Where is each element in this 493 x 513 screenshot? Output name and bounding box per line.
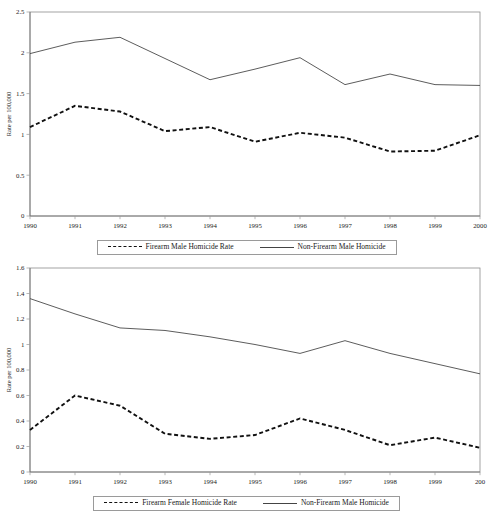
x-axis-tick-label: 2000 xyxy=(473,222,487,229)
series-line-dashed xyxy=(30,106,480,152)
legend-top: Firearm Male Homicide Rate Non-Firearm M… xyxy=(0,240,493,255)
x-axis-tick-label: 1999 xyxy=(428,478,442,485)
legend-box-top: Firearm Male Homicide Rate Non-Firearm M… xyxy=(97,240,397,255)
legend-item-firearm-female: Firearm Female Homicide Rate xyxy=(104,498,237,508)
x-axis-tick-label: 1990 xyxy=(23,478,37,485)
dashed-line-icon xyxy=(104,500,138,506)
y-axis-tick-label: 0.6 xyxy=(16,392,25,399)
y-axis-tick-label: 1.6 xyxy=(16,264,25,271)
legend-label-nonfirearm-male-2: Non-Firearm Male Homicide xyxy=(301,498,389,508)
legend-bottom: Firearm Female Homicide Rate Non-Firearm… xyxy=(0,496,493,511)
y-axis-tick-label: 2 xyxy=(21,49,25,56)
x-axis-tick-label: 1999 xyxy=(428,222,442,229)
series-line-solid xyxy=(30,299,480,374)
y-axis-tick-label: 0.4 xyxy=(16,417,25,424)
y-axis-tick-label: 0.5 xyxy=(16,172,25,179)
dashed-line-icon xyxy=(108,244,142,250)
legend-item-nonfirearm-male: Non-Firearm Male Homicide xyxy=(260,242,386,252)
y-axis-tick-label: 1 xyxy=(21,341,24,348)
y-axis-title: Rate per 100,000 xyxy=(5,348,12,393)
y-axis-tick-label: 1.5 xyxy=(16,90,25,97)
legend-box-bottom: Firearm Female Homicide Rate Non-Firearm… xyxy=(93,496,400,511)
x-axis-tick-label: 1997 xyxy=(338,222,352,229)
legend-label-nonfirearm-male: Non-Firearm Male Homicide xyxy=(298,242,386,252)
x-axis-tick-label: 1998 xyxy=(383,478,397,485)
plot-area-top: 00.511.522.51990199119921993199419951996… xyxy=(0,0,493,238)
x-axis-tick-label: 1990 xyxy=(23,222,37,229)
y-axis-tick-label: 1 xyxy=(21,131,24,138)
y-axis-tick-label: 1.2 xyxy=(16,315,25,322)
y-axis-tick-label: 0 xyxy=(21,468,25,475)
x-axis-tick-label: 1995 xyxy=(248,222,262,229)
plot-frame xyxy=(30,12,480,216)
x-axis-tick-label: 1994 xyxy=(203,478,217,485)
legend-item-firearm-male: Firearm Male Homicide Rate xyxy=(108,242,234,252)
figure-container: 00.511.522.51990199119921993199419951996… xyxy=(0,0,493,513)
x-axis-tick-label: 1997 xyxy=(338,478,352,485)
legend-label-firearm-female: Firearm Female Homicide Rate xyxy=(142,498,237,508)
y-axis-tick-label: 0.8 xyxy=(16,366,25,373)
x-axis-tick-label: 1994 xyxy=(203,222,217,229)
legend-label-firearm-male: Firearm Male Homicide Rate xyxy=(146,242,234,252)
y-axis-tick-label: 2.5 xyxy=(16,8,25,15)
x-axis-tick-label: 1996 xyxy=(293,222,307,229)
x-axis-tick-label: 200 xyxy=(475,478,486,485)
plot-area-bottom: 00.20.40.60.811.21.41.619901991199219931… xyxy=(0,258,493,494)
y-axis-tick-label: 1.4 xyxy=(16,290,25,297)
legend-item-nonfirearm-male-2: Non-Firearm Male Homicide xyxy=(263,498,389,508)
x-axis-tick-label: 1998 xyxy=(383,222,397,229)
chart-female-homicide: 00.20.40.60.811.21.41.619901991199219931… xyxy=(0,258,493,513)
chart-male-homicide: 00.511.522.51990199119921993199419951996… xyxy=(0,0,493,258)
x-axis-tick-label: 1992 xyxy=(113,478,127,485)
x-axis-tick-label: 1995 xyxy=(248,478,262,485)
x-axis-tick-label: 1993 xyxy=(158,222,172,229)
series-line-solid xyxy=(30,37,480,85)
x-axis-tick-label: 1993 xyxy=(158,478,172,485)
x-axis-tick-label: 1996 xyxy=(293,478,307,485)
line-chart-top: 00.511.522.51990199119921993199419951996… xyxy=(0,0,493,238)
series-line-dashed xyxy=(30,396,480,448)
solid-line-icon xyxy=(260,244,294,250)
y-axis-tick-label: 0.2 xyxy=(16,443,25,450)
y-axis-title: Rate per 100,000 xyxy=(5,92,12,137)
x-axis-tick-label: 1992 xyxy=(113,222,127,229)
solid-line-icon xyxy=(263,500,297,506)
y-axis-tick-label: 0 xyxy=(21,212,25,219)
line-chart-bottom: 00.20.40.60.811.21.41.619901991199219931… xyxy=(0,258,493,494)
x-axis-tick-label: 1991 xyxy=(68,222,82,229)
x-axis-tick-label: 1991 xyxy=(68,478,82,485)
